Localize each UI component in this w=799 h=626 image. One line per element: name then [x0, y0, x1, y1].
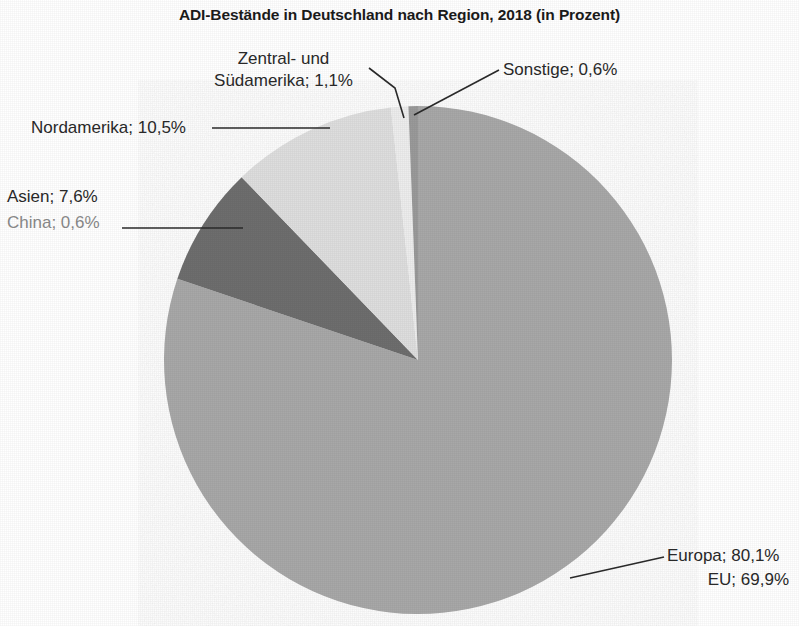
callout-nordamerika: Nordamerika; 10,5% — [31, 117, 186, 139]
callout-sonstige: Sonstige; 0,6% — [503, 59, 617, 81]
callout-zentral-suedamerika-line1: Zentral- und — [186, 48, 381, 70]
callout-asien: Asien; 7,6% — [7, 186, 98, 208]
callout-europa: Europa; 80,1% — [667, 545, 779, 567]
leader-line-europa — [570, 557, 664, 578]
callout-zentral-suedamerika: Zentral- und Südamerika; 1,1% — [186, 48, 381, 92]
callout-eu: EU; 69,9% — [667, 569, 789, 591]
leader-line-sonstige — [414, 70, 499, 115]
callout-china: China; 0,6% — [7, 212, 100, 234]
pie-chart — [0, 0, 799, 626]
chart-page: ADI-Bestände in Deutschland nach Region,… — [0, 0, 799, 626]
callout-zentral-suedamerika-line2: Südamerika; 1,1% — [186, 70, 381, 92]
